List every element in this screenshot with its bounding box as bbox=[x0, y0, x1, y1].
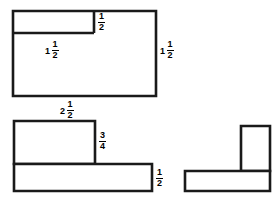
upper-rectangle-outline bbox=[14, 121, 95, 164]
figure-top-left bbox=[13, 11, 156, 96]
fraction-numerator: 1 bbox=[156, 168, 163, 177]
label-upper-height: 3 4 bbox=[99, 131, 106, 152]
figures-canvas bbox=[0, 0, 276, 207]
figure-bottom-left bbox=[14, 121, 152, 191]
fraction-glyph: 1 2 bbox=[167, 40, 174, 61]
label-whole-part: 1 bbox=[160, 47, 165, 56]
fraction-denominator: 2 bbox=[167, 51, 174, 60]
figure-bottom-right bbox=[185, 126, 270, 191]
fraction-numerator: 1 bbox=[167, 40, 174, 49]
label-lower-height: 1 2 bbox=[156, 168, 163, 189]
label-whole-part: 1 bbox=[45, 47, 50, 56]
fraction-numerator: 1 bbox=[67, 100, 74, 109]
fraction-numerator: 1 bbox=[98, 12, 105, 21]
fraction-glyph: 1 2 bbox=[52, 40, 59, 61]
fraction-glyph: 3 4 bbox=[99, 131, 106, 152]
fraction-numerator: 1 bbox=[52, 40, 59, 49]
fraction-denominator: 2 bbox=[156, 179, 163, 188]
fraction-glyph: 1 2 bbox=[67, 100, 74, 121]
lower-bar-outline bbox=[14, 164, 152, 191]
fraction-denominator: 4 bbox=[99, 142, 106, 151]
fraction-denominator: 2 bbox=[52, 51, 59, 60]
fraction-numerator: 3 bbox=[99, 131, 106, 140]
fraction-glyph: 1 2 bbox=[156, 168, 163, 189]
label-notch-width: 1 1 2 bbox=[45, 40, 59, 61]
horizontal-bar-outline bbox=[185, 171, 270, 191]
label-bottom-width: 2 1 2 bbox=[60, 100, 74, 121]
outer-rectangle-outline bbox=[13, 11, 156, 96]
label-right-height: 1 1 2 bbox=[160, 40, 174, 61]
label-whole-part: 2 bbox=[60, 107, 65, 116]
fraction-glyph: 1 2 bbox=[98, 12, 105, 33]
label-notch-height: 1 2 bbox=[98, 12, 105, 33]
fraction-denominator: 2 bbox=[98, 23, 105, 32]
fraction-denominator: 2 bbox=[67, 111, 74, 120]
vertical-rectangle-outline bbox=[241, 126, 270, 171]
